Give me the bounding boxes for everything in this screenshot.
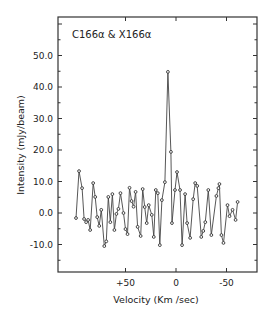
data-point bbox=[218, 183, 221, 186]
y-tick-label: 10.0 bbox=[33, 177, 53, 187]
data-point bbox=[115, 213, 118, 216]
data-point bbox=[194, 182, 197, 185]
data-point bbox=[122, 212, 125, 215]
data-point bbox=[170, 150, 173, 153]
y-tick-label: 20.0 bbox=[33, 145, 53, 155]
plot-frame bbox=[58, 17, 257, 272]
data-point bbox=[154, 189, 157, 192]
data-point bbox=[143, 206, 146, 209]
y-tick-label: 40.0 bbox=[33, 82, 53, 92]
data-point bbox=[163, 181, 166, 184]
data-point bbox=[119, 192, 122, 195]
y-axis-label: Intensity (mJy/beam) bbox=[15, 95, 26, 195]
data-point bbox=[234, 219, 237, 222]
y-tick-label: 50.0 bbox=[33, 51, 53, 61]
data-point bbox=[81, 187, 84, 190]
data-point bbox=[130, 200, 133, 203]
data-point bbox=[176, 171, 179, 174]
x-axis-label: Velocity (Km /sec) bbox=[113, 294, 198, 305]
data-point bbox=[139, 235, 142, 238]
data-point bbox=[103, 245, 106, 248]
series-line bbox=[76, 72, 238, 246]
y-tick-label: -10.0 bbox=[30, 240, 54, 250]
data-point bbox=[156, 192, 159, 195]
data-point bbox=[132, 205, 135, 208]
y-tick-label: 30.0 bbox=[33, 114, 53, 124]
data-point bbox=[226, 204, 229, 207]
data-point bbox=[215, 195, 218, 198]
data-point bbox=[94, 196, 97, 199]
data-point bbox=[111, 193, 114, 196]
data-point bbox=[181, 244, 184, 247]
data-point bbox=[202, 230, 205, 233]
data-point bbox=[124, 228, 127, 231]
x-tick-label: -50 bbox=[219, 278, 234, 288]
data-point bbox=[126, 233, 129, 236]
data-point bbox=[200, 236, 203, 239]
data-point bbox=[204, 221, 207, 224]
data-point bbox=[78, 170, 81, 173]
spectrum-chart: -10.00.010.020.030.040.050.0 +500-50 C16… bbox=[0, 0, 275, 328]
data-point bbox=[207, 189, 210, 192]
data-point bbox=[231, 208, 234, 211]
data-point bbox=[189, 236, 192, 239]
x-axis-ticks: +500-50 bbox=[116, 17, 234, 288]
data-point bbox=[113, 229, 116, 232]
data-point bbox=[100, 208, 103, 211]
data-point bbox=[210, 234, 213, 237]
chart-annotation: C166α & X166α bbox=[72, 29, 152, 40]
plot-border bbox=[58, 17, 257, 272]
data-point bbox=[128, 186, 131, 189]
data-point bbox=[89, 229, 92, 232]
data-point bbox=[75, 217, 78, 220]
x-tick-label: +50 bbox=[116, 278, 135, 288]
x-tick-label: 0 bbox=[173, 278, 179, 288]
data-point bbox=[222, 242, 225, 245]
data-point bbox=[147, 204, 150, 207]
data-point bbox=[184, 193, 187, 196]
data-point bbox=[141, 188, 144, 191]
data-point bbox=[134, 190, 137, 193]
y-axis-ticks: -10.00.010.020.030.040.050.0 bbox=[30, 24, 257, 260]
data-point bbox=[160, 199, 163, 202]
data-point bbox=[179, 189, 182, 192]
data-point bbox=[145, 222, 148, 225]
data-point bbox=[105, 240, 108, 243]
data-point bbox=[220, 234, 223, 237]
data-point bbox=[158, 244, 161, 247]
data-point bbox=[150, 213, 153, 216]
data-point bbox=[192, 198, 195, 201]
data-point bbox=[196, 185, 199, 188]
data-point bbox=[98, 225, 101, 228]
data-point bbox=[228, 215, 231, 218]
data-point bbox=[87, 219, 90, 222]
data-point bbox=[136, 225, 139, 228]
data-point bbox=[217, 187, 220, 190]
data-point bbox=[186, 222, 189, 225]
data-point bbox=[117, 208, 120, 211]
data-point bbox=[174, 189, 177, 192]
data-point bbox=[107, 196, 110, 199]
data-point bbox=[167, 70, 170, 73]
data-point bbox=[92, 182, 95, 185]
data-series bbox=[75, 70, 239, 247]
data-point bbox=[171, 222, 174, 225]
data-point bbox=[109, 221, 112, 224]
data-point bbox=[96, 216, 99, 219]
y-tick-label: 0.0 bbox=[39, 208, 54, 218]
data-point bbox=[83, 218, 86, 221]
data-point bbox=[152, 236, 155, 239]
data-point bbox=[236, 201, 239, 204]
